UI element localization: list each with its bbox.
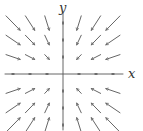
vector-arrow [106, 55, 120, 60]
vector-arrow [106, 16, 120, 30]
vector-field-plot [0, 0, 143, 131]
vector-arrow [6, 55, 20, 60]
axes [5, 13, 123, 130]
vector-arrow [25, 103, 34, 113]
vector-arrow [6, 16, 20, 30]
vector-arrow [106, 118, 120, 131]
y-axis-label: y [59, 1, 66, 14]
vector-arrow [91, 103, 100, 113]
vector-arrow [25, 55, 34, 60]
vector-arrow [106, 89, 120, 94]
vector-arrow [45, 16, 49, 30]
vector-arrow [91, 118, 100, 131]
vector-arrow [25, 16, 34, 30]
vector-arrow [45, 118, 49, 131]
vector-arrow [91, 16, 100, 30]
vector-arrow [91, 35, 100, 45]
vector-arrow [77, 16, 81, 30]
vector-arrow [25, 118, 34, 131]
vector-arrow [6, 35, 20, 45]
vector-arrow [6, 103, 20, 113]
vector-arrow [91, 89, 100, 94]
vector-arrow [91, 55, 100, 60]
vector-arrow [6, 118, 20, 131]
vector-arrow [25, 35, 34, 45]
vector-arrow [25, 89, 34, 94]
vector-arrow [106, 103, 120, 113]
vector-arrow [106, 35, 120, 45]
x-axis-label: x [128, 67, 135, 80]
vector-arrow [6, 89, 20, 94]
vector-field-diagram: x y [0, 0, 143, 131]
vector-arrow [77, 118, 81, 131]
